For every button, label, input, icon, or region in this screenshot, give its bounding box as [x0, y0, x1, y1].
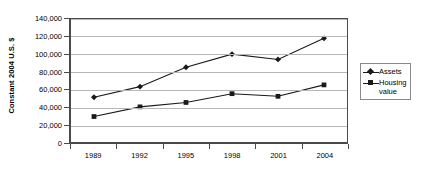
y-axis-tick-label: 0	[58, 139, 62, 148]
x-axis-tick-label: 1992	[131, 151, 148, 160]
y-axis-tick-label: 20,000	[39, 121, 62, 130]
data-point	[322, 83, 327, 88]
data-point	[91, 94, 97, 100]
data-point	[137, 84, 143, 90]
y-axis-tickmark	[64, 143, 69, 144]
y-axis-tickmark	[64, 36, 69, 37]
y-axis-tickmark	[64, 54, 69, 55]
y-axis-tickmark	[64, 107, 69, 108]
legend-item-assets: Assets	[363, 67, 407, 77]
gridline	[71, 36, 347, 37]
y-axis-tick-label: 40,000	[39, 103, 62, 112]
gridline	[71, 108, 347, 109]
y-axis-tick-label: 80,000	[39, 67, 62, 76]
x-axis-tickmark	[348, 144, 349, 149]
x-axis-tick-label: 2004	[316, 151, 333, 160]
chart-legend: Assets Housing value	[360, 63, 411, 100]
chart-container: Constant 2004 U.S. $ 020,00040,00060,000…	[0, 0, 428, 180]
gridline	[71, 54, 347, 55]
data-point	[184, 100, 189, 105]
x-axis-tick-label: 1995	[177, 151, 194, 160]
plot-area	[70, 18, 348, 143]
x-axis-tickmark	[116, 144, 117, 149]
y-axis-tick-labels: 020,00040,00060,00080,000100,000120,0001…	[20, 18, 66, 143]
square-marker-icon	[363, 79, 379, 88]
legend-label-housing-value: Housing value	[379, 78, 407, 96]
y-axis-tick-label: 140,000	[35, 14, 62, 23]
y-axis-tick-label: 100,000	[35, 49, 62, 58]
legend-item-housing-value: Housing value	[363, 78, 407, 96]
data-point	[183, 64, 189, 70]
x-axis-tickmark	[302, 144, 303, 149]
gridline	[71, 72, 347, 73]
x-axis-tick-label: 2001	[270, 151, 287, 160]
gridline	[71, 90, 347, 91]
x-axis-tick-label: 1989	[85, 151, 102, 160]
data-point	[275, 56, 281, 62]
data-point	[230, 91, 235, 96]
x-axis-tickmark	[255, 144, 256, 149]
y-axis-tickmark	[64, 89, 69, 90]
y-axis-tick-label: 120,000	[35, 31, 62, 40]
x-axis-tickmark	[163, 144, 164, 149]
gridline	[71, 126, 347, 127]
y-axis-title: Constant 2004 U.S. $	[0, 0, 22, 150]
series-canvas	[71, 19, 347, 142]
diamond-marker-icon	[363, 68, 379, 77]
x-axis-tickmark	[209, 144, 210, 149]
y-axis-tickmark	[64, 72, 69, 73]
y-axis-tickmark	[64, 125, 69, 126]
legend-label-assets: Assets	[379, 67, 402, 76]
series-line-assets	[94, 38, 324, 97]
y-axis-tickmark	[64, 18, 69, 19]
gridline	[71, 19, 347, 20]
data-point	[276, 94, 281, 99]
y-axis-tick-label: 60,000	[39, 85, 62, 94]
x-axis-tick-label: 1998	[224, 151, 241, 160]
x-axis-tickmark	[70, 144, 71, 149]
y-axis-title-text: Constant 2004 U.S. $	[7, 37, 16, 113]
data-point	[92, 114, 97, 119]
